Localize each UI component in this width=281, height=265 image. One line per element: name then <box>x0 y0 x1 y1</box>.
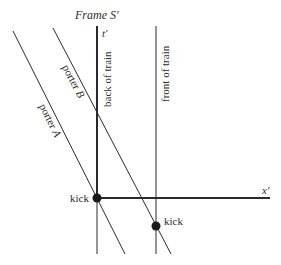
kick-event-1-label: kick <box>70 192 89 204</box>
porter-a-label: porter A <box>37 102 64 140</box>
t-prime-axis-label: t′ <box>102 27 108 39</box>
kick-event-2-dot <box>152 222 161 231</box>
porter-b-label: porter B <box>60 62 87 99</box>
porter-a-label-main: porter <box>37 102 61 133</box>
back-of-train-label: back of train <box>101 51 113 107</box>
kick-event-2-label: kick <box>164 215 183 227</box>
x-prime-axis-label: x′ <box>261 184 270 196</box>
spacetime-diagram: Frame S′ t′ x′ back of train front of tr… <box>0 0 281 265</box>
kick-event-1-dot <box>93 194 102 203</box>
front-of-train-label: front of train <box>159 45 171 102</box>
diagram-title: Frame S′ <box>74 8 119 22</box>
